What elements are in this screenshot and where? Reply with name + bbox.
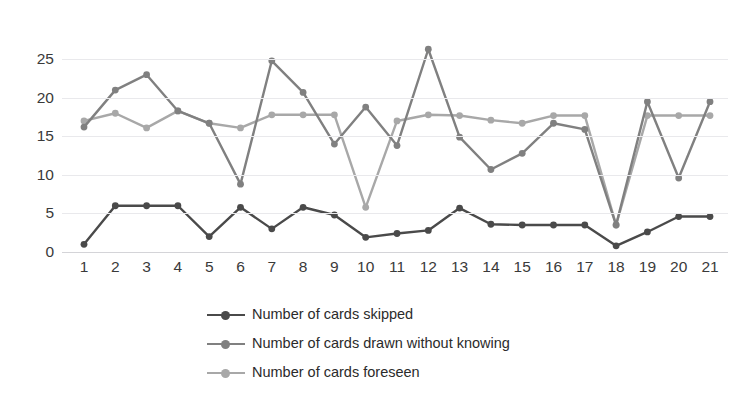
plot-area — [62, 40, 728, 252]
gridline — [62, 98, 728, 99]
data-point-marker — [237, 124, 244, 131]
x-axis-tick-label: 4 — [163, 258, 193, 275]
data-point-marker — [519, 150, 526, 157]
legend-marker-icon — [221, 369, 230, 378]
data-point-marker — [81, 124, 88, 131]
data-point-marker — [425, 227, 432, 234]
data-point-marker — [425, 46, 432, 53]
legend-item[interactable]: Number of cards drawn without knowing — [0, 329, 748, 358]
legend-marker-icon — [221, 340, 230, 349]
data-point-marker — [456, 205, 463, 212]
data-point-marker — [362, 204, 369, 211]
data-point-marker — [143, 202, 150, 209]
data-point-marker — [550, 120, 557, 127]
y-axis-tick-label: 0 — [14, 244, 54, 260]
data-point-marker — [644, 229, 651, 236]
data-point-marker — [519, 222, 526, 229]
data-point-marker — [456, 112, 463, 119]
data-point-marker — [300, 89, 307, 96]
gridline — [62, 213, 728, 214]
data-point-marker — [362, 104, 369, 111]
data-point-marker — [237, 181, 244, 188]
data-point-marker — [143, 71, 150, 78]
x-axis-tick-label: 18 — [601, 258, 631, 275]
x-axis-tick-label: 7 — [257, 258, 287, 275]
chart-legend: Number of cards skippedNumber of cards d… — [0, 300, 748, 387]
data-point-marker — [613, 222, 620, 229]
data-point-marker — [300, 204, 307, 211]
data-point-marker — [268, 111, 275, 118]
data-point-marker — [394, 142, 401, 149]
y-axis-tick-label: 10 — [14, 167, 54, 183]
y-axis-tick-label: 20 — [14, 90, 54, 106]
gridline — [62, 175, 728, 176]
legend-swatch-icon — [207, 309, 245, 321]
data-point-marker — [175, 108, 182, 115]
gridline — [62, 136, 728, 137]
data-point-marker — [175, 202, 182, 209]
x-axis-tick-label: 1 — [69, 258, 99, 275]
data-point-marker — [707, 112, 714, 119]
data-point-marker — [550, 112, 557, 119]
data-point-marker — [112, 87, 119, 94]
x-axis-tick-label: 13 — [445, 258, 475, 275]
x-axis-tick-label: 17 — [570, 258, 600, 275]
x-axis-tick-label: 6 — [226, 258, 256, 275]
x-axis-tick-label: 20 — [664, 258, 694, 275]
data-point-marker — [613, 242, 620, 249]
x-axis-tick-label: 12 — [413, 258, 443, 275]
data-point-marker — [206, 233, 213, 240]
data-point-marker — [581, 112, 588, 119]
data-point-marker — [143, 124, 150, 131]
y-axis-tick-label: 25 — [14, 52, 54, 68]
axis-baseline — [62, 252, 728, 253]
data-point-marker — [675, 112, 682, 119]
series-lines-layer — [62, 40, 728, 252]
y-axis-tick-label: 15 — [14, 129, 54, 145]
data-point-marker — [644, 98, 651, 105]
data-point-marker — [394, 230, 401, 237]
y-axis-tick-label: 5 — [14, 206, 54, 222]
legend-item[interactable]: Number of cards skipped — [0, 300, 748, 329]
legend-item[interactable]: Number of cards foreseen — [0, 358, 748, 387]
line-chart: 0510152025 12345678910111213141516171819… — [0, 0, 748, 410]
x-axis-tick-label: 8 — [288, 258, 318, 275]
x-axis-tick-label: 5 — [194, 258, 224, 275]
data-point-marker — [394, 118, 401, 125]
data-point-marker — [362, 234, 369, 241]
data-point-marker — [237, 204, 244, 211]
data-point-marker — [81, 241, 88, 248]
x-axis-tick-label: 11 — [382, 258, 412, 275]
legend-item-label: Number of cards foreseen — [252, 365, 420, 380]
x-axis-tick-label: 19 — [632, 258, 662, 275]
x-axis-tick-label: 21 — [695, 258, 725, 275]
data-point-marker — [550, 222, 557, 229]
data-point-marker — [300, 111, 307, 118]
legend-item-label: Number of cards drawn without knowing — [252, 336, 510, 351]
data-point-marker — [112, 202, 119, 209]
data-point-marker — [488, 221, 495, 228]
x-axis-tick-label: 9 — [319, 258, 349, 275]
data-point-marker — [488, 117, 495, 124]
data-point-marker — [581, 222, 588, 229]
legend-item-label: Number of cards skipped — [252, 307, 413, 322]
x-axis-tick-label: 3 — [132, 258, 162, 275]
data-point-marker — [488, 166, 495, 173]
x-axis: 123456789101112131415161718192021 — [62, 258, 728, 282]
data-point-marker — [112, 110, 119, 117]
x-axis-tick-label: 15 — [507, 258, 537, 275]
data-point-marker — [331, 141, 338, 148]
x-axis-tick-label: 16 — [539, 258, 569, 275]
data-point-marker — [707, 98, 714, 105]
gridline — [62, 59, 728, 60]
legend-marker-icon — [221, 311, 230, 320]
data-point-marker — [581, 126, 588, 133]
data-point-marker — [425, 111, 432, 118]
data-point-marker — [268, 225, 275, 232]
data-point-marker — [519, 120, 526, 127]
x-axis-tick-label: 10 — [351, 258, 381, 275]
data-point-marker — [206, 120, 213, 127]
legend-swatch-icon — [207, 338, 245, 350]
legend-swatch-icon — [207, 367, 245, 379]
x-axis-tick-label: 14 — [476, 258, 506, 275]
